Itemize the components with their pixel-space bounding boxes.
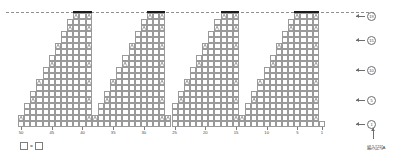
grid-cell[interactable] — [276, 49, 282, 55]
grid-cell[interactable] — [221, 43, 227, 49]
grid-cell[interactable] — [153, 37, 159, 43]
grid-cell[interactable] — [147, 73, 153, 79]
grid-cell[interactable] — [159, 37, 165, 43]
grid-cell[interactable] — [67, 43, 73, 49]
grid-cell[interactable] — [178, 103, 184, 109]
grid-cell[interactable] — [147, 49, 153, 55]
grid-cell[interactable] — [196, 97, 202, 103]
grid-cell[interactable] — [276, 115, 282, 121]
grid-cell[interactable] — [208, 91, 214, 97]
grid-cell[interactable] — [86, 37, 92, 43]
grid-cell[interactable] — [288, 103, 294, 109]
grid-cell[interactable] — [300, 19, 306, 25]
grid-cell[interactable] — [227, 85, 233, 91]
grid-cell[interactable] — [141, 103, 147, 109]
grid-cell[interactable] — [153, 49, 159, 55]
grid-cell[interactable] — [116, 79, 122, 85]
grid-cell[interactable] — [313, 49, 319, 55]
grid-cell[interactable] — [122, 85, 128, 91]
grid-cell[interactable] — [73, 55, 79, 61]
grid-cell[interactable] — [98, 115, 104, 121]
grid-cell[interactable] — [300, 103, 306, 109]
grid-cell[interactable] — [227, 97, 233, 103]
grid-cell[interactable] — [55, 61, 61, 67]
grid-cell[interactable] — [147, 61, 153, 67]
grid-cell[interactable] — [67, 79, 73, 85]
grid-cell[interactable] — [159, 25, 165, 31]
grid-cell[interactable] — [202, 43, 208, 49]
grid-cell[interactable] — [227, 73, 233, 79]
grid-cell[interactable] — [264, 73, 270, 79]
grid-cell[interactable] — [196, 79, 202, 85]
grid-cell[interactable] — [73, 25, 79, 31]
grid-cell[interactable] — [61, 73, 67, 79]
grid-cell[interactable] — [313, 97, 319, 103]
grid-cell[interactable] — [221, 31, 227, 37]
grid-cell[interactable] — [147, 79, 153, 85]
grid-cell[interactable] — [104, 115, 110, 121]
grid-cell[interactable] — [307, 67, 313, 73]
grid-cell[interactable] — [190, 109, 196, 115]
grid-cell[interactable] — [67, 97, 73, 103]
grid-cell[interactable] — [300, 55, 306, 61]
grid-cell[interactable] — [221, 13, 227, 19]
grid-cell[interactable] — [184, 109, 190, 115]
grid-cell[interactable] — [49, 115, 55, 121]
grid-cell[interactable] — [288, 49, 294, 55]
grid-cell[interactable] — [79, 73, 85, 79]
grid-cell[interactable] — [141, 97, 147, 103]
grid-cell[interactable] — [36, 109, 42, 115]
grid-cell[interactable] — [294, 73, 300, 79]
grid-cell[interactable] — [233, 103, 239, 109]
grid-cell[interactable] — [172, 109, 178, 115]
grid-cell[interactable] — [214, 79, 220, 85]
grid-cell[interactable] — [79, 67, 85, 73]
grid-cell[interactable] — [129, 61, 135, 67]
grid-cell[interactable] — [196, 85, 202, 91]
grid-cell[interactable] — [61, 31, 67, 37]
grid-cell[interactable] — [313, 67, 319, 73]
grid-cell[interactable] — [86, 25, 92, 31]
grid-cell[interactable] — [190, 67, 196, 73]
grid-cell[interactable] — [190, 91, 196, 97]
grid-cell[interactable] — [55, 103, 61, 109]
grid-cell[interactable] — [288, 55, 294, 61]
grid-cell[interactable] — [86, 85, 92, 91]
grid-cell[interactable] — [307, 31, 313, 37]
grid-cell[interactable] — [61, 85, 67, 91]
grid-cell[interactable] — [294, 115, 300, 121]
grid-cell[interactable] — [208, 115, 214, 121]
grid-cell[interactable] — [73, 67, 79, 73]
grid-cell[interactable] — [233, 67, 239, 73]
grid-cell[interactable] — [221, 61, 227, 67]
grid-cell[interactable] — [276, 67, 282, 73]
grid-cell[interactable] — [55, 43, 61, 49]
grid-cell[interactable] — [73, 61, 79, 67]
grid-cell[interactable] — [282, 97, 288, 103]
grid-cell[interactable] — [67, 103, 73, 109]
grid-cell[interactable] — [67, 37, 73, 43]
grid-cell[interactable] — [307, 91, 313, 97]
grid-cell[interactable] — [129, 49, 135, 55]
grid-cell[interactable] — [79, 85, 85, 91]
grid-cell[interactable] — [208, 73, 214, 79]
grid-cell[interactable] — [233, 31, 239, 37]
grid-cell[interactable] — [221, 49, 227, 55]
grid-cell[interactable] — [153, 97, 159, 103]
grid-cell[interactable] — [282, 85, 288, 91]
grid-cell[interactable] — [86, 79, 92, 85]
grid-cell[interactable] — [178, 109, 184, 115]
grid-cell[interactable] — [264, 79, 270, 85]
grid-cell[interactable] — [73, 31, 79, 37]
grid-cell[interactable] — [221, 67, 227, 73]
grid-cell[interactable] — [79, 103, 85, 109]
grid-cell[interactable] — [300, 37, 306, 43]
grid-cell[interactable] — [61, 55, 67, 61]
grid-cell[interactable] — [300, 91, 306, 97]
grid-cell[interactable] — [153, 31, 159, 37]
grid-cell[interactable] — [264, 97, 270, 103]
grid-cell[interactable] — [61, 109, 67, 115]
grid-cell[interactable] — [276, 97, 282, 103]
grid-cell[interactable] — [294, 31, 300, 37]
grid-cell[interactable] — [178, 115, 184, 121]
